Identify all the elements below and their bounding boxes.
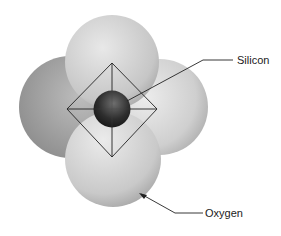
silicon-label: Silicon [237, 54, 269, 66]
oxygen-leader-line [141, 194, 203, 213]
tetrahedron-diagram [0, 0, 281, 236]
oxygen-label: Oxygen [205, 207, 243, 219]
